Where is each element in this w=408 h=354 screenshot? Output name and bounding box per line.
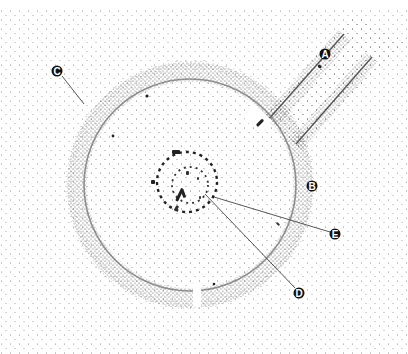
label-c: C [52,66,63,77]
diagram-canvas: A B C D E [0,0,408,354]
henge-diagram: A B C D E [0,0,408,354]
label-d-text: D [295,288,302,299]
label-d: D [294,288,305,299]
label-e-text: E [332,229,339,240]
label-a-text: A [321,49,328,60]
label-e: E [330,229,341,240]
label-c-text: C [53,66,60,77]
outer-bank [69,64,311,307]
label-b: B [307,181,318,192]
label-a: A [320,49,331,60]
label-b-text: B [308,181,315,192]
